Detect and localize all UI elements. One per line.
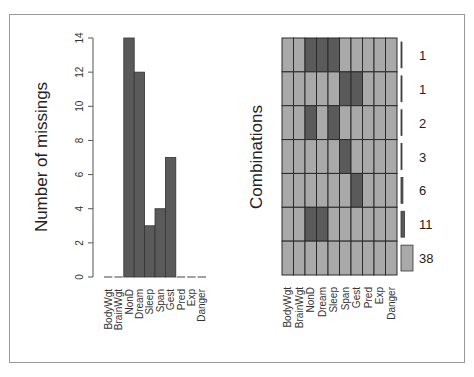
- cell-observed: [340, 38, 352, 72]
- missing-data-plot: 02468101214BodyWgtBrainWgtNonDDreamSleep…: [0, 0, 474, 377]
- cell-observed: [305, 173, 317, 207]
- x-category-label: NonD: [124, 289, 135, 315]
- count-label: 38: [419, 251, 433, 266]
- cell-observed: [317, 106, 329, 140]
- count-label: 2: [419, 116, 426, 131]
- cell-observed: [386, 38, 398, 72]
- cell-observed: [305, 140, 317, 174]
- y-tick-label: 4: [74, 205, 85, 211]
- cell-observed: [328, 72, 340, 106]
- cell-observed: [386, 106, 398, 140]
- cell-observed: [374, 106, 386, 140]
- cell-observed: [294, 241, 306, 275]
- cell-observed: [386, 207, 398, 241]
- cell-observed: [363, 173, 375, 207]
- count-label: 1: [419, 82, 426, 97]
- count-bar: [401, 211, 404, 237]
- column-label: BodyWgt: [282, 287, 293, 328]
- x-category-label: BrainWgt: [113, 289, 124, 330]
- cell-observed: [294, 106, 306, 140]
- y-tick-label: 12: [74, 66, 85, 78]
- cell-observed: [328, 140, 340, 174]
- cell-observed: [351, 38, 363, 72]
- x-category-label: Gest: [165, 289, 176, 310]
- cell-observed: [294, 140, 306, 174]
- cell-observed: [294, 207, 306, 241]
- count-bar: [401, 177, 403, 203]
- cell-observed: [351, 241, 363, 275]
- cell-observed: [328, 241, 340, 275]
- right-y-axis-title: Combinations: [247, 105, 266, 209]
- column-label: Gest: [351, 287, 362, 308]
- cell-observed: [374, 173, 386, 207]
- cell-observed: [294, 72, 306, 106]
- cell-observed: [340, 106, 352, 140]
- cell-observed: [363, 241, 375, 275]
- x-category-label: Span: [155, 289, 166, 312]
- y-tick-label: 14: [74, 32, 85, 44]
- cell-observed: [363, 140, 375, 174]
- cell-observed: [282, 38, 294, 72]
- cell-observed: [340, 207, 352, 241]
- cell-observed: [374, 72, 386, 106]
- y-tick-label: 8: [74, 137, 85, 143]
- x-category-label: BodyWgt: [103, 289, 114, 330]
- cell-observed: [386, 241, 398, 275]
- cell-missing: [305, 106, 317, 140]
- column-label: Exp: [374, 287, 385, 305]
- count-bar: [401, 245, 413, 271]
- x-category-label: Danger: [196, 288, 207, 321]
- cell-observed: [386, 173, 398, 207]
- cell-observed: [317, 173, 329, 207]
- cell-observed: [363, 38, 375, 72]
- cell-observed: [282, 241, 294, 275]
- left-y-axis-title: Number of missings: [32, 82, 51, 232]
- column-label: Sleep: [328, 287, 339, 313]
- cell-missing: [305, 38, 317, 72]
- count-label: 1: [419, 48, 426, 63]
- cell-observed: [294, 38, 306, 72]
- cell-observed: [386, 140, 398, 174]
- cell-observed: [317, 241, 329, 275]
- cell-observed: [351, 140, 363, 174]
- bar: [165, 158, 175, 278]
- cell-observed: [282, 72, 294, 106]
- cell-observed: [374, 241, 386, 275]
- cell-observed: [294, 173, 306, 207]
- cell-missing: [351, 173, 363, 207]
- cell-missing: [328, 38, 340, 72]
- cell-observed: [374, 207, 386, 241]
- column-label: Span: [340, 287, 351, 310]
- cell-missing: [340, 140, 352, 174]
- cell-observed: [363, 207, 375, 241]
- x-category-label: Pred: [176, 289, 187, 310]
- column-label: BrainWgt: [294, 287, 305, 328]
- y-tick-label: 2: [74, 240, 85, 246]
- y-tick-label: 0: [74, 274, 85, 280]
- count-label: 6: [419, 183, 426, 198]
- cell-missing: [340, 72, 352, 106]
- cell-observed: [340, 241, 352, 275]
- x-category-label: Exp: [186, 289, 197, 307]
- cell-observed: [363, 72, 375, 106]
- y-tick-label: 6: [74, 171, 85, 177]
- bar: [124, 38, 134, 277]
- bar: [145, 226, 155, 277]
- cell-observed: [351, 106, 363, 140]
- cell-observed: [363, 106, 375, 140]
- count-bar: [401, 42, 402, 68]
- cell-missing: [317, 207, 329, 241]
- count-bar: [401, 110, 402, 136]
- x-category-label: Dream: [134, 289, 145, 319]
- cell-missing: [317, 38, 329, 72]
- cell-observed: [328, 207, 340, 241]
- column-label: Dream: [317, 287, 328, 317]
- cell-observed: [374, 38, 386, 72]
- cell-observed: [386, 72, 398, 106]
- cell-observed: [282, 207, 294, 241]
- count-bar: [401, 76, 402, 102]
- bar: [155, 209, 165, 277]
- y-tick-label: 10: [74, 100, 85, 112]
- cell-observed: [282, 140, 294, 174]
- cell-observed: [305, 241, 317, 275]
